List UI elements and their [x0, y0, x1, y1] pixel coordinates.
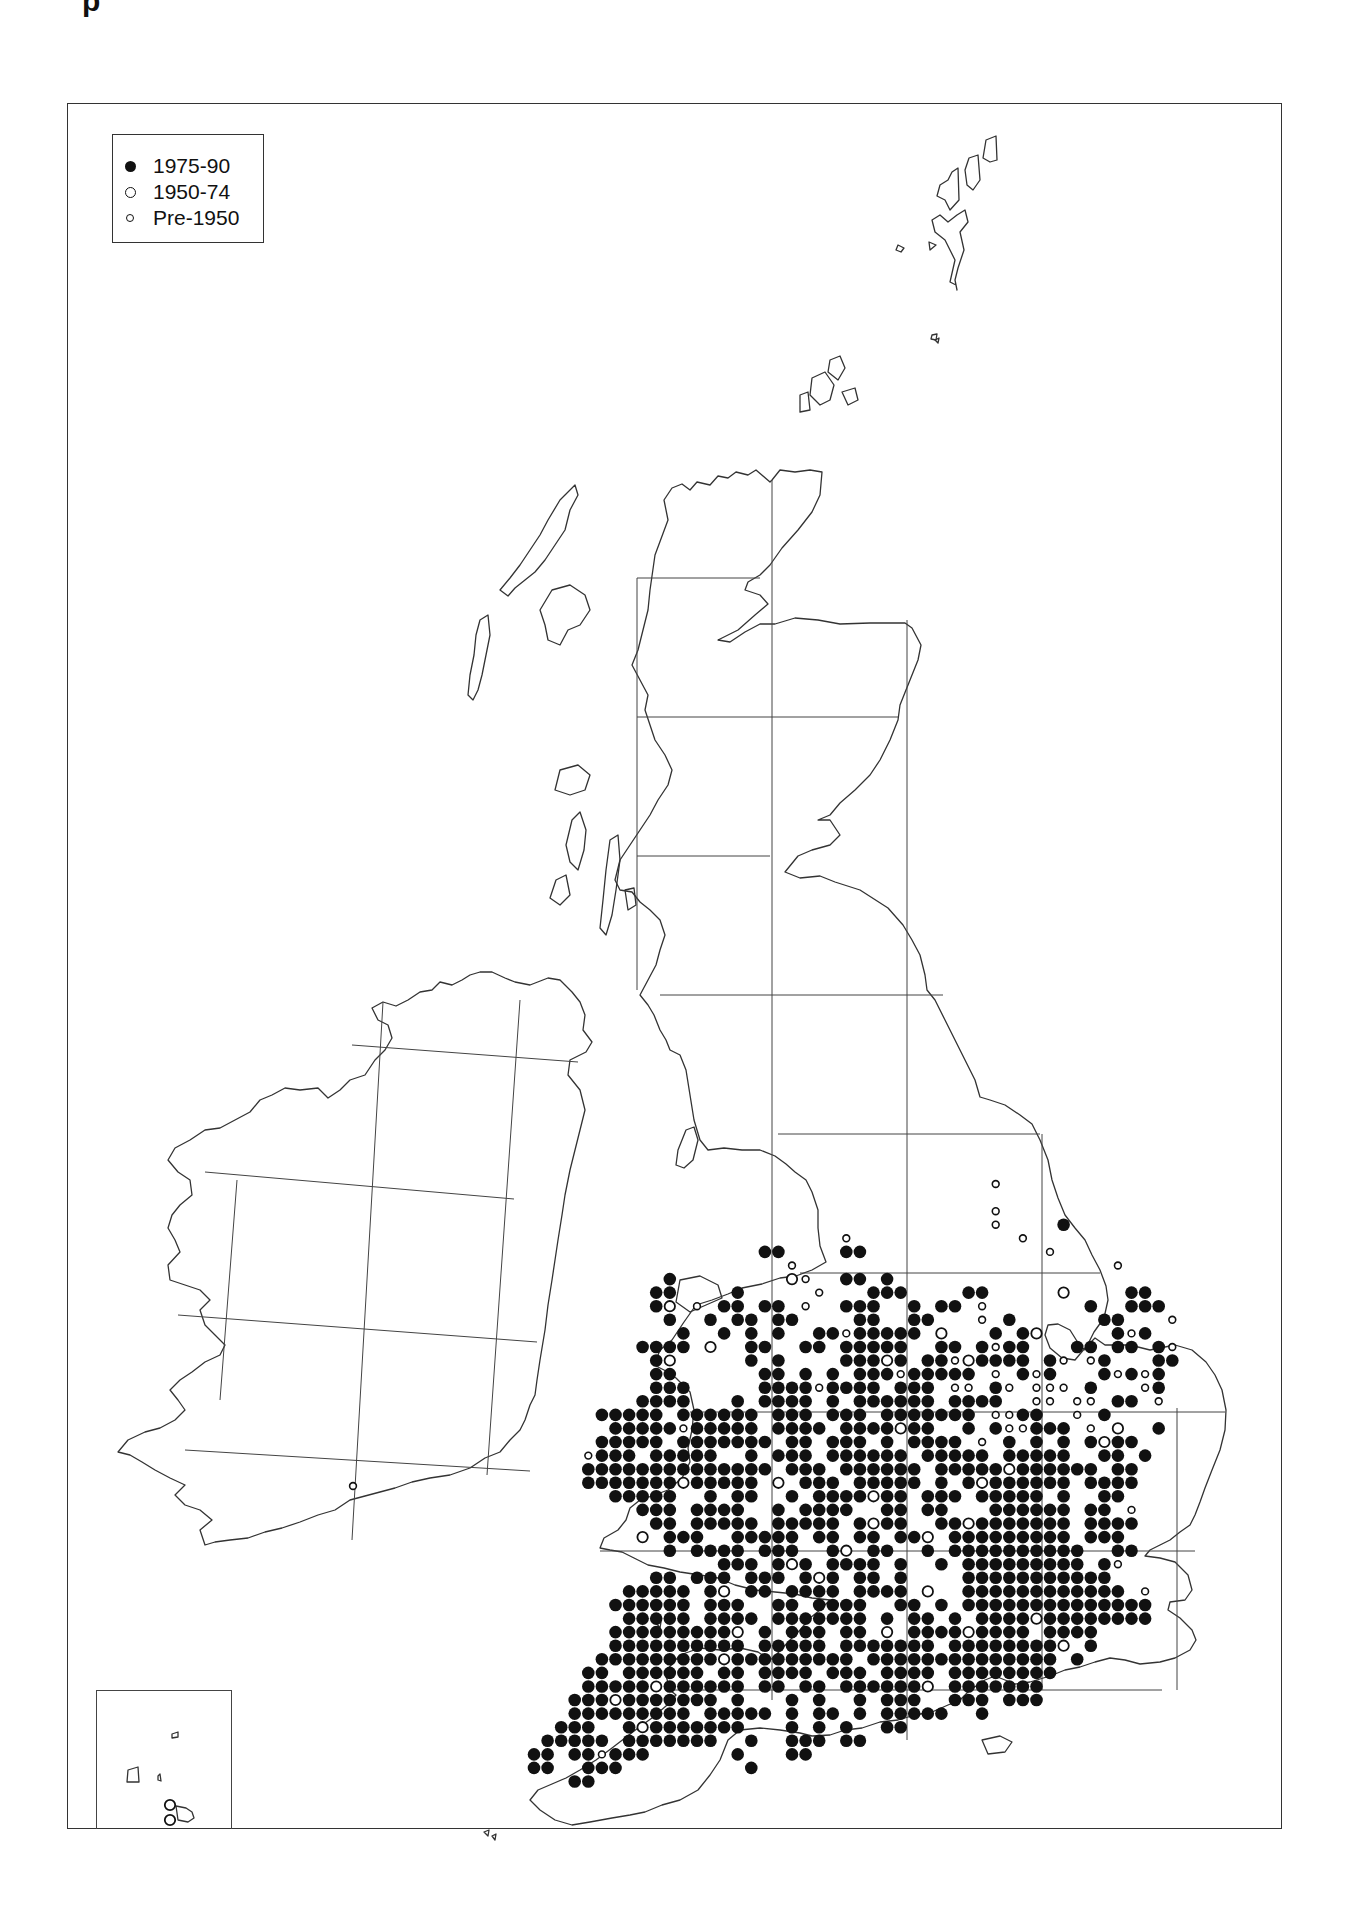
- record-1975-90: [1003, 1490, 1016, 1503]
- record-1975-90: [799, 1449, 812, 1462]
- record-1975-90: [854, 1694, 867, 1707]
- record-1975-90: [881, 1463, 894, 1476]
- record-1975-90: [786, 1707, 799, 1720]
- record-1975-90: [962, 1653, 975, 1666]
- record-1975-90: [1125, 1544, 1138, 1557]
- record-1975-90: [799, 1368, 812, 1381]
- record-1975-90: [1017, 1694, 1030, 1707]
- record-1975-90: [664, 1504, 677, 1517]
- legend-item-pre-1950: Pre-1950: [125, 205, 263, 231]
- record-1975-90: [1098, 1517, 1111, 1530]
- record-1975-90: [1057, 1626, 1070, 1639]
- record-1975-90: [827, 1449, 840, 1462]
- record-1975-90: [1085, 1341, 1098, 1354]
- coastline-mull: [555, 765, 590, 795]
- record-1975-90: [935, 1368, 948, 1381]
- record-1975-90: [1044, 1422, 1057, 1435]
- record-1950-74: [814, 1573, 824, 1583]
- record-1975-90: [786, 1544, 799, 1557]
- record-1975-90: [596, 1707, 609, 1720]
- record-1975-90: [596, 1477, 609, 1490]
- record-1975-90: [704, 1612, 717, 1625]
- record-1975-90: [609, 1490, 622, 1503]
- record-pre-1950: [1020, 1235, 1027, 1242]
- record-1975-90: [691, 1639, 704, 1652]
- record-1975-90: [989, 1585, 1002, 1598]
- record-1950-74: [787, 1559, 797, 1569]
- record-1975-90: [908, 1409, 921, 1422]
- record-1975-90: [840, 1490, 853, 1503]
- record-1975-90: [1030, 1558, 1043, 1571]
- record-1975-90: [1057, 1436, 1070, 1449]
- record-1975-90: [976, 1341, 989, 1354]
- record-1975-90: [1017, 1354, 1030, 1367]
- record-1975-90: [1085, 1300, 1098, 1313]
- record-1975-90: [840, 1653, 853, 1666]
- record-1975-90: [772, 1381, 785, 1394]
- record-1975-90: [772, 1572, 785, 1585]
- record-1975-90: [745, 1707, 758, 1720]
- record-1975-90: [1003, 1694, 1016, 1707]
- record-pre-1950: [843, 1235, 850, 1242]
- record-1975-90: [1003, 1653, 1016, 1666]
- record-1975-90: [854, 1735, 867, 1748]
- record-1975-90: [582, 1667, 595, 1680]
- record-1950-74: [637, 1532, 647, 1542]
- record-1975-90: [731, 1748, 744, 1761]
- record-1975-90: [1030, 1436, 1043, 1449]
- record-1975-90: [636, 1422, 649, 1435]
- record-1975-90: [759, 1531, 772, 1544]
- record-1975-90: [541, 1762, 554, 1775]
- record-1975-90: [1017, 1585, 1030, 1598]
- record-pre-1950: [979, 1439, 986, 1446]
- record-1975-90: [989, 1667, 1002, 1680]
- record-1975-90: [1003, 1504, 1016, 1517]
- record-1975-90: [881, 1721, 894, 1734]
- record-1975-90: [840, 1300, 853, 1313]
- record-1975-90: [772, 1504, 785, 1517]
- record-1975-90: [881, 1612, 894, 1625]
- record-1975-90: [894, 1477, 907, 1490]
- record-1975-90: [827, 1572, 840, 1585]
- record-1975-90: [731, 1694, 744, 1707]
- record-1975-90: [1030, 1517, 1043, 1530]
- record-1975-90: [1030, 1572, 1043, 1585]
- record-pre-1950: [1128, 1330, 1135, 1337]
- record-1975-90: [623, 1680, 636, 1693]
- record-1975-90: [772, 1599, 785, 1612]
- record-1975-90: [989, 1327, 1002, 1340]
- record-1975-90: [718, 1680, 731, 1693]
- record-1975-90: [677, 1612, 690, 1625]
- record-1975-90: [718, 1300, 731, 1313]
- record-1975-90: [772, 1314, 785, 1327]
- record-1975-90: [867, 1314, 880, 1327]
- record-1975-90: [623, 1748, 636, 1761]
- record-1975-90: [759, 1653, 772, 1666]
- record-1975-90: [935, 1300, 948, 1313]
- record-1975-90: [854, 1314, 867, 1327]
- record-1975-90: [718, 1422, 731, 1435]
- record-1975-90: [691, 1422, 704, 1435]
- record-1975-90: [718, 1721, 731, 1734]
- small-open-circle-icon: [126, 214, 134, 222]
- record-1975-90: [840, 1639, 853, 1652]
- record-1975-90: [1139, 1612, 1152, 1625]
- record-1975-90: [1139, 1300, 1152, 1313]
- record-1975-90: [704, 1477, 717, 1490]
- record-1975-90: [1112, 1477, 1125, 1490]
- record-1975-90: [691, 1626, 704, 1639]
- record-1975-90: [922, 1436, 935, 1449]
- record-1975-90: [731, 1721, 744, 1734]
- record-1975-90: [881, 1273, 894, 1286]
- record-1975-90: [813, 1707, 826, 1720]
- record-1975-90: [827, 1558, 840, 1571]
- record-1950-74: [651, 1681, 661, 1691]
- record-1975-90: [813, 1653, 826, 1666]
- record-1975-90: [664, 1653, 677, 1666]
- map-canvas: [0, 0, 1347, 1921]
- record-1975-90: [799, 1504, 812, 1517]
- record-1975-90: [582, 1762, 595, 1775]
- record-1975-90: [854, 1707, 867, 1720]
- record-1975-90: [1085, 1504, 1098, 1517]
- record-1975-90: [989, 1381, 1002, 1394]
